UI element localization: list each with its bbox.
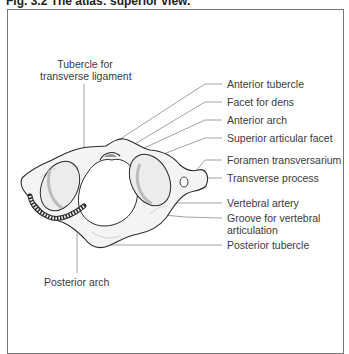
label-line: Groove for vertebral: [227, 212, 320, 224]
label-foramen-transversarium: Foramen transversarium: [227, 154, 341, 166]
label-line: articulation: [227, 224, 320, 236]
label-anterior-arch: Anterior arch: [227, 114, 287, 126]
label-posterior-tubercle: Posterior tubercle: [227, 239, 309, 251]
label-facet-for-dens: Facet for dens: [227, 96, 294, 108]
label-groove-vertebral-articulation: Groove for vertebral articulation: [227, 212, 320, 236]
label-posterior-arch: Posterior arch: [44, 276, 109, 288]
label-line: Tubercle for: [40, 58, 130, 70]
label-vertebral-artery: Vertebral artery: [227, 197, 299, 209]
label-anterior-tubercle: Anterior tubercle: [227, 78, 304, 90]
label-superior-articular-facet: Superior articular facet: [227, 132, 333, 144]
label-transverse-process: Transverse process: [227, 172, 319, 184]
label-tubercle-transverse-ligament: Tubercle for transverse ligament: [40, 58, 130, 82]
atlas-bone: [21, 139, 207, 248]
label-line: transverse ligament: [40, 70, 130, 82]
